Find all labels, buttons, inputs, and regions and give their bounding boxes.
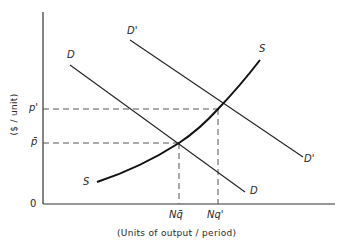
- y-axis-label: ($ / unit): [10, 87, 19, 143]
- price-p-bar-label: p̄: [31, 137, 37, 147]
- demand-curve: [70, 65, 245, 192]
- origin-label: 0: [30, 199, 37, 209]
- supply-label-start: S: [83, 177, 89, 187]
- x-axis-label: (Units of output / period): [117, 229, 236, 238]
- supply-label-end: S: [259, 44, 265, 54]
- demand-shifted-curve: [130, 40, 303, 157]
- demand-label-start: D: [67, 50, 75, 60]
- demand-shifted-label-start: D': [127, 26, 137, 36]
- demand-label-end: D: [250, 186, 258, 196]
- demand-shifted-label-end: D': [304, 154, 314, 164]
- quantity-nq-bar-label: Nq̄: [169, 210, 183, 220]
- quantity-nq-prime-label: Nq': [207, 210, 224, 220]
